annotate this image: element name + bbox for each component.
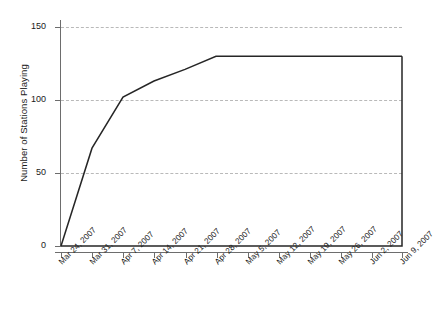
gridline-50 [61,173,402,174]
y-tick-label-100: 100 [18,94,46,104]
y-axis-title: Number of Stations Playing [14,0,32,246]
y-tick-mark-150 [55,27,61,28]
y-tick-label-50: 50 [18,167,46,177]
plot-area [61,27,402,246]
y-tick-mark-100 [55,100,61,101]
y-tick-label-0: 0 [18,240,46,250]
y-tick-mark-50 [55,173,61,174]
gridline-150 [61,27,402,28]
y-tick-mark-0 [55,246,61,247]
y-tick-label-150: 150 [18,21,46,31]
gridline-100 [61,100,402,101]
y-axis-line [60,20,61,247]
